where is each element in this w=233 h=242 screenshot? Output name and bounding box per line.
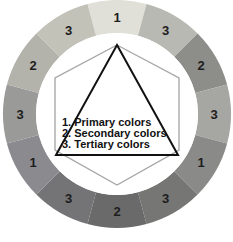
segment-label-9: 3 bbox=[16, 107, 23, 122]
segment-label-8: 1 bbox=[29, 155, 36, 170]
segment-label-6: 2 bbox=[113, 204, 120, 219]
legend-line-3: 3. Tertiary colors bbox=[62, 138, 150, 150]
inner-white-disc bbox=[36, 33, 198, 195]
segment-label-11: 3 bbox=[65, 23, 72, 38]
segment-label-5: 3 bbox=[162, 191, 169, 206]
segment-label-10: 2 bbox=[29, 58, 36, 73]
segment-label-0: 1 bbox=[113, 10, 120, 25]
color-wheel-figure: 132313231323 1. Primary colors2. Seconda… bbox=[0, 0, 233, 242]
segment-label-1: 3 bbox=[162, 23, 169, 38]
segment-label-3: 3 bbox=[210, 107, 217, 122]
color-wheel-canvas: 132313231323 1. Primary colors2. Seconda… bbox=[0, 0, 233, 242]
segment-label-2: 2 bbox=[197, 58, 204, 73]
segment-label-7: 3 bbox=[65, 191, 72, 206]
segment-label-4: 1 bbox=[197, 155, 204, 170]
